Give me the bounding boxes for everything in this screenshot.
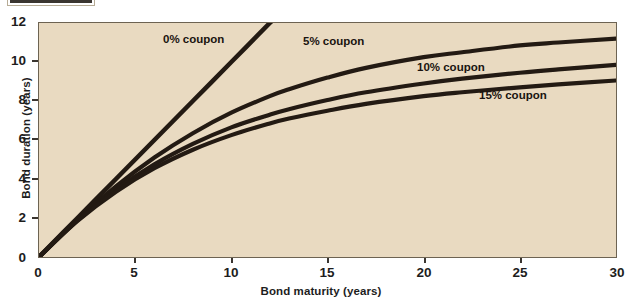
- x-tick-mark-20: [424, 258, 426, 263]
- y-tick-label-2: 2: [0, 211, 26, 225]
- x-tick-label-20: 20: [416, 266, 431, 280]
- y-tick-label-6: 6: [0, 132, 26, 146]
- y-axis-ticks: 12 10 8 6 4 2 0: [0, 0, 36, 302]
- x-tick-mark-5: [134, 258, 136, 263]
- plot-area: 0% coupon 5% coupon 10% coupon 15% coupo…: [38, 22, 617, 258]
- x-tick-label-0: 0: [34, 266, 42, 280]
- annotation-0-coupon: 0% coupon: [163, 34, 224, 46]
- y-tick-label-12: 12: [0, 15, 26, 29]
- x-tick-mark-10: [231, 258, 233, 263]
- y-tick-label-4: 4: [0, 172, 26, 186]
- annotation-10-coupon: 10% coupon: [417, 62, 485, 74]
- x-axis-label: Bond maturity (years): [0, 285, 642, 297]
- x-tick-label-25: 25: [512, 266, 527, 280]
- x-tick-label-10: 10: [223, 266, 238, 280]
- annotation-15-coupon: 15% coupon: [479, 90, 547, 102]
- x-tick-label-30: 30: [609, 266, 624, 280]
- x-tick-label-15: 15: [319, 266, 334, 280]
- y-tick-label-8: 8: [0, 93, 26, 107]
- curves-svg: [39, 23, 616, 257]
- x-tick-label-5: 5: [130, 266, 138, 280]
- x-tick-mark-25: [520, 258, 522, 263]
- bond-duration-chart-figure: Bond duration (years) 12 10 8 6 4 2 0 0 …: [0, 0, 642, 302]
- y-tick-label-10: 10: [0, 54, 26, 68]
- x-tick-mark-15: [327, 258, 329, 263]
- annotation-5-coupon: 5% coupon: [303, 36, 364, 48]
- y-tick-label-0: 0: [0, 251, 26, 265]
